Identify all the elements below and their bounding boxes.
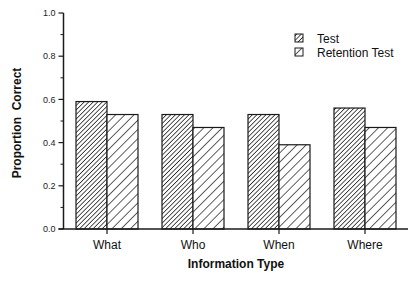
y-tick-label: 1.0 <box>43 8 56 18</box>
bar-where-test <box>334 108 365 229</box>
bar-who-retention <box>193 127 224 229</box>
x-category-label: Where <box>347 238 383 252</box>
x-category-label: Who <box>181 238 206 252</box>
y-tick-label: 0.6 <box>43 95 56 105</box>
x-axis-title: Information Type <box>188 257 285 271</box>
legend-item-retention: Retention Test <box>295 46 394 60</box>
legend-swatch-test <box>295 34 303 42</box>
x-category-label: When <box>263 238 294 252</box>
x-category-label: What <box>93 238 122 252</box>
y-tick-label: 0.2 <box>43 181 56 191</box>
bar-who-test <box>162 115 193 229</box>
bar-when-test <box>248 115 279 229</box>
x-axis: WhatWhoWhenWhere <box>59 229 409 252</box>
bar-what-retention <box>107 115 138 229</box>
legend-item-test: Test <box>295 32 340 46</box>
legend-swatch-retention <box>295 48 303 56</box>
bar-what-test <box>76 102 107 229</box>
y-axis: 0.00.20.40.60.81.0 <box>43 8 64 234</box>
bars <box>76 102 396 229</box>
y-tick-label: 0.8 <box>43 51 56 61</box>
y-axis-title: Proportion Correct <box>10 68 24 179</box>
bar-chart: Proportion Correct 0.00.20.40.60.81.0 Wh… <box>0 0 415 284</box>
legend-label-retention: Retention Test <box>317 46 394 60</box>
bar-when-retention <box>279 145 310 229</box>
y-tick-label: 0.0 <box>43 224 56 234</box>
legend: Test Retention Test <box>295 32 394 60</box>
bar-where-retention <box>365 127 396 229</box>
legend-label-test: Test <box>317 32 340 46</box>
y-tick-label: 0.4 <box>43 138 56 148</box>
